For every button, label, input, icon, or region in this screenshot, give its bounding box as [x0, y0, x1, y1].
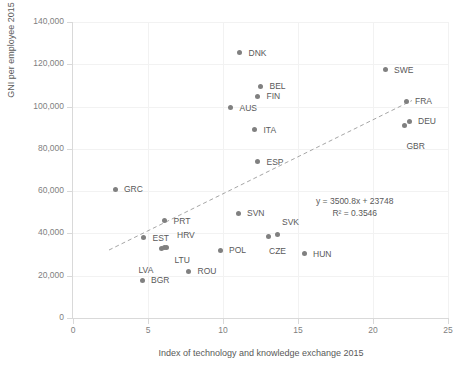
data-point-label-svn: SVN: [247, 209, 264, 218]
x-tick-mark: [298, 318, 299, 324]
data-point-label-cze: CZE: [269, 247, 286, 256]
data-point-pol[interactable]: [218, 248, 223, 253]
x-tick-label: 20: [358, 326, 388, 335]
data-point-label-hun: HUN: [313, 250, 331, 259]
y-tick-label: 60,000: [38, 186, 64, 195]
data-point-label-svk: SVK: [282, 218, 299, 227]
trendline: [73, 22, 448, 318]
data-point-label-pol: POL: [229, 246, 246, 255]
data-point-label-bel: BEL: [270, 82, 286, 91]
y-tick-label: 100,000: [33, 102, 64, 111]
data-point-label-swe: SWE: [394, 66, 413, 75]
data-point-aus[interactable]: [228, 105, 233, 110]
x-tick-mark: [223, 318, 224, 324]
gridline-vertical: [448, 22, 449, 318]
data-point-cze[interactable]: [266, 234, 271, 239]
data-point-label-fin: FIN: [267, 92, 281, 101]
data-point-fra[interactable]: [404, 99, 409, 104]
data-point-label-dnk: DNK: [249, 49, 267, 58]
data-point-esp[interactable]: [255, 159, 260, 164]
gridline-horizontal: [73, 149, 448, 150]
x-axis-line: [73, 318, 449, 319]
data-point-rou[interactable]: [186, 269, 191, 274]
data-point-ita[interactable]: [252, 127, 257, 132]
data-point-est[interactable]: [141, 235, 146, 240]
data-point-label-rou: ROU: [198, 267, 217, 276]
y-tick-label: 20,000: [38, 271, 64, 280]
data-point-dnk[interactable]: [237, 50, 242, 55]
data-point-label-ita: ITA: [264, 126, 277, 135]
x-tick-label: 15: [283, 326, 313, 335]
data-point-label-aus: AUS: [240, 104, 257, 113]
data-point-label-lva: LVA: [139, 266, 154, 275]
x-tick-label: 0: [58, 326, 88, 335]
scatter-chart: GNI per employee 2015 020,00040,00060,00…: [0, 0, 463, 375]
y-tick-label: 40,000: [38, 228, 64, 237]
data-point-label-bgr: BGR: [151, 276, 169, 285]
regression-annotation: y = 3500.8x + 23748 R² = 0.3546: [316, 195, 394, 220]
y-tick-label: 120,000: [33, 59, 64, 68]
gridline-vertical: [298, 22, 299, 318]
data-point-prt[interactable]: [162, 218, 167, 223]
regression-equation: y = 3500.8x + 23748: [316, 195, 394, 207]
x-axis-title: Index of technology and knowledge exchan…: [73, 348, 449, 358]
data-point-label-grc: GRC: [124, 185, 143, 194]
gridline-vertical: [223, 22, 224, 318]
y-tick-label: 80,000: [38, 144, 64, 153]
x-tick-label: 25: [433, 326, 463, 335]
data-point-label-prt: PRT: [174, 217, 191, 226]
data-point-grc[interactable]: [113, 187, 118, 192]
gridline-horizontal: [73, 22, 448, 23]
y-tick-label: 140,000: [33, 17, 64, 26]
data-point-svn[interactable]: [236, 211, 241, 216]
data-point-label-ltu: LTU: [175, 256, 190, 265]
x-tick-label: 5: [133, 326, 163, 335]
data-point-label-gbr: GBR: [407, 142, 425, 151]
data-point-svk[interactable]: [275, 232, 280, 237]
data-point-label-hrv: HRV: [177, 231, 195, 240]
data-point-label-fra: FRA: [415, 97, 432, 106]
regression-r-squared: R² = 0.3546: [316, 207, 394, 219]
x-tick-label: 10: [208, 326, 238, 335]
data-point-fin[interactable]: [255, 94, 260, 99]
data-point-gbr[interactable]: [402, 123, 407, 128]
data-point-lva[interactable]: [159, 246, 164, 251]
data-point-label-esp: ESP: [267, 158, 284, 167]
gridline-horizontal: [73, 64, 448, 65]
data-point-hun[interactable]: [302, 251, 307, 256]
x-tick-mark: [148, 318, 149, 324]
data-point-bel[interactable]: [258, 84, 263, 89]
plot-area: DNKSWEBELFINFRAAUSDEUGBRITAESPGRCSVNPRTS…: [73, 22, 448, 318]
data-point-label-est: EST: [153, 234, 170, 243]
x-tick-mark: [373, 318, 374, 324]
gridline-horizontal: [73, 107, 448, 108]
gridline-horizontal: [73, 276, 448, 277]
gridline-vertical: [373, 22, 374, 318]
data-point-deu[interactable]: [407, 119, 412, 124]
data-point-bgr[interactable]: [140, 278, 145, 283]
x-tick-mark: [73, 318, 74, 324]
data-point-label-deu: DEU: [418, 117, 436, 126]
gridline-horizontal: [73, 233, 448, 234]
x-tick-mark: [448, 318, 449, 324]
y-tick-label: 0: [59, 313, 64, 322]
data-point-swe[interactable]: [383, 67, 388, 72]
